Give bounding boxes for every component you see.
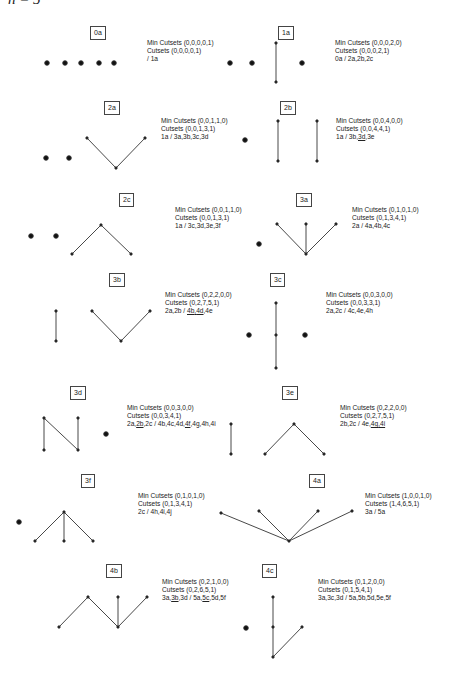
cutsets: Cutsets (1,4,6,5,1) [365, 500, 432, 508]
graph-info-0a: Min Cutsets (0,0,0,0,1) Cutsets (0,0,0,0… [147, 39, 214, 63]
min-cutsets: Min Cutsets (0,2,2,0,0) [340, 404, 407, 412]
graph-label-0a: 0a [90, 26, 106, 40]
cutsets: Cutsets (0,2,7,5,1) [340, 412, 407, 420]
relations: 1a / 3a,3b,3c,3d [161, 133, 228, 141]
graph-label-4c: 4c [262, 564, 277, 578]
relations: 2c / 4h,4i,4j [138, 508, 205, 516]
relations: 2a / 4a,4b,4c [352, 222, 419, 230]
relations: 2b,2c / 4e,4g,4i [340, 420, 407, 428]
relations: 3a,3b,3d / 5a,5c,5d,5f [162, 594, 229, 602]
cutsets: Cutsets (0,1,3,4,1) [138, 500, 205, 508]
cutsets: Cutsets (0,0,3,4,1) [127, 412, 216, 420]
min-cutsets: Min Cutsets (0,0,1,1,0) [161, 117, 228, 125]
relations: 2a,2b / 4b,4d,4e [165, 307, 232, 315]
graph-info-3d: Min Cutsets (0,0,3,0,0) Cutsets (0,0,3,4… [127, 404, 216, 428]
cutsets: Cutsets (0,1,5,4,1) [318, 586, 391, 594]
graph-info-1a: Min Cutsets (0,0,0,2,0) Cutsets (0,0,0,2… [335, 39, 402, 63]
min-cutsets: Min Cutsets (0,1,2,0,0) [318, 578, 391, 586]
relations: / 1a [147, 55, 214, 63]
graph-0a-drawing [45, 61, 117, 66]
cutsets: Cutsets (0,0,1,3,1) [161, 125, 228, 133]
graph-label-4a: 4a [309, 474, 325, 488]
graph-4c-drawing [244, 596, 303, 658]
min-cutsets: Min Cutsets (0,0,4,0,0) [336, 117, 403, 125]
graph-info-3c: Min Cutsets (0,0,3,0,0) Cutsets (0,0,3,3… [326, 291, 393, 315]
graph-info-3b: Min Cutsets (0,2,2,0,0) Cutsets (0,2,7,5… [165, 291, 232, 315]
graph-3a-drawing [257, 223, 337, 255]
graph-info-4c: Min Cutsets (0,1,2,0,0) Cutsets (0,1,5,4… [318, 578, 391, 602]
graph-label-3b: 3b [109, 273, 125, 287]
graph-label-2b: 2b [280, 101, 296, 115]
cutsets: Cutsets (0,2,7,5,1) [165, 299, 232, 307]
graph-label-2a: 2a [104, 101, 120, 115]
cutsets: Cutsets (0,0,0,2,1) [335, 47, 402, 55]
graph-3b-drawing [55, 310, 151, 342]
min-cutsets: Min Cutsets (0,0,3,0,0) [326, 291, 393, 299]
graph-info-2c: Min Cutsets (0,0,1,1,0) Cutsets (0,0,1,3… [175, 206, 242, 230]
graph-3e-drawing [230, 423, 325, 455]
min-cutsets: Min Cutsets (0,0,0,2,0) [335, 39, 402, 47]
graph-info-3e: Min Cutsets (0,2,2,0,0) Cutsets (0,2,7,5… [340, 404, 407, 428]
cutsets: Cutsets (0,0,1,3,1) [175, 214, 242, 222]
graph-label-4b: 4b [106, 564, 122, 578]
graph-info-3f: Min Cutsets (0,1,0,1,0) Cutsets (0,1,3,4… [138, 492, 205, 516]
min-cutsets: Min Cutsets (0,2,2,0,0) [165, 291, 232, 299]
cutsets: Cutsets (0,1,3,4,1) [352, 214, 419, 222]
relations: 1a / 3c,3d,3e,3f [175, 222, 242, 230]
graph-4b-drawing [58, 596, 148, 628]
min-cutsets: Min Cutsets (0,0,1,1,0) [175, 206, 242, 214]
relations: 3a,3c,3d / 5a,5b,5d,5e,5f [318, 594, 391, 602]
min-cutsets: Min Cutsets (0,1,0,1,0) [352, 206, 419, 214]
graph-3c-drawing [247, 302, 308, 369]
min-cutsets: Min Cutsets (0,0,0,0,1) [147, 39, 214, 47]
graph-info-2b: Min Cutsets (0,0,4,0,0) Cutsets (0,0,4,4… [336, 117, 403, 141]
graph-2c-drawing [29, 224, 133, 255]
graph-3f-drawing [17, 511, 95, 542]
graph-label-1a: 1a [278, 26, 294, 40]
graph-info-2a: Min Cutsets (0,0,1,1,0) Cutsets (0,0,1,3… [161, 117, 228, 141]
relations: 2a,2c / 4c,4e,4h [326, 307, 393, 315]
graph-info-4b: Min Cutsets (0,2,1,0,0) Cutsets (0,2,6,5… [162, 578, 229, 602]
min-cutsets: Min Cutsets (0,1,0,1,0) [138, 492, 205, 500]
graph-label-3e: 3e [282, 386, 298, 400]
cutsets: Cutsets (0,0,0,0,1) [147, 47, 214, 55]
graph-label-2c: 2c [119, 193, 134, 207]
graph-4a-drawing [220, 510, 353, 542]
graph-1a-drawing [228, 42, 305, 83]
graph-label-3a: 3a [296, 193, 312, 207]
relations: 3a / 5a [365, 508, 432, 516]
graph-label-3c: 3c [270, 273, 285, 287]
graph-2b-drawing [243, 120, 318, 162]
graph-info-3a: Min Cutsets (0,1,0,1,0) Cutsets (0,1,3,4… [352, 206, 419, 230]
relations: 2a,2b,2c / 4b,4c,4d,4f,4g,4h,4i [127, 420, 216, 428]
graph-label-3d: 3d [70, 386, 86, 400]
cutsets: Cutsets (0,0,4,4,1) [336, 125, 403, 133]
graph-label-3f: 3f [81, 474, 95, 488]
relations: 1a / 3b,3d,3e [336, 133, 403, 141]
min-cutsets: Min Cutsets (1,0,0,1,0) [365, 492, 432, 500]
cutsets: Cutsets (0,2,6,5,1) [162, 586, 229, 594]
graph-2a-drawing [44, 137, 147, 169]
graph-3d-drawing [43, 417, 109, 451]
min-cutsets: Min Cutsets (0,2,1,0,0) [162, 578, 229, 586]
relations: 0a / 2a,2b,2c [335, 55, 402, 63]
min-cutsets: Min Cutsets (0,0,3,0,0) [127, 404, 216, 412]
graph-info-4a: Min Cutsets (1,0,0,1,0) Cutsets (1,4,6,5… [365, 492, 432, 516]
cutsets: Cutsets (0,0,3,3,1) [326, 299, 393, 307]
